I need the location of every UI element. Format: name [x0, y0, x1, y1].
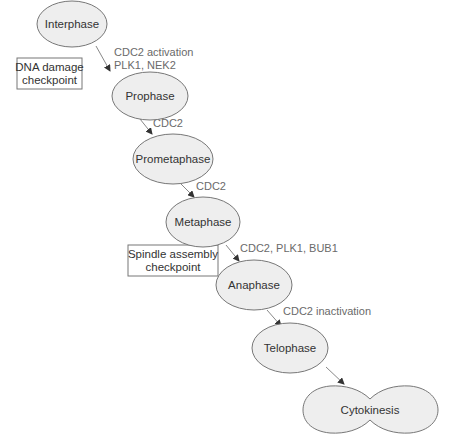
- edge-prophase-prometaphase: [140, 119, 152, 134]
- node-prophase: Prophase: [112, 72, 188, 120]
- edge-metaphase-anaphase: [226, 245, 239, 261]
- node-metaphase: Metaphase: [166, 197, 240, 247]
- checkpoint-spindle-assembly: Spindle assembly checkpoint: [128, 245, 218, 276]
- node-anaphase-label: Anaphase: [228, 279, 280, 291]
- checkpoint-dna-damage-line2: checkpoint: [22, 74, 78, 86]
- node-metaphase-label: Metaphase: [175, 216, 232, 228]
- edge-label-plk1-nek2: PLK1, NEK2: [114, 59, 176, 71]
- node-prophase-label: Prophase: [125, 90, 174, 102]
- node-telophase-label: Telophase: [264, 342, 316, 354]
- checkpoint-spindle-assembly-line1: Spindle assembly: [128, 248, 218, 260]
- checkpoint-dna-damage-line1: DNA damage: [15, 61, 83, 73]
- edge-prometaphase-metaphase: [180, 183, 194, 197]
- node-interphase: Interphase: [37, 1, 107, 47]
- edge-label-cdc2-plk1-bub1: CDC2, PLK1, BUB1: [240, 242, 338, 254]
- edge-telophase-cytokinesis: [326, 367, 344, 384]
- checkpoint-dna-damage: DNA damage checkpoint: [15, 58, 83, 89]
- node-telophase: Telophase: [252, 323, 328, 373]
- node-interphase-label: Interphase: [45, 18, 99, 30]
- edge-label-cdc2-inactivation: CDC2 inactivation: [283, 305, 371, 317]
- edge-interphase-prophase: [96, 46, 110, 71]
- node-prometaphase: Prometaphase: [133, 134, 213, 184]
- edge-label-cdc2-2: CDC2: [196, 180, 226, 192]
- node-cytokinesis-label: Cytokinesis: [341, 404, 400, 416]
- node-cytokinesis: Cytokinesis: [303, 386, 438, 433]
- node-anaphase: Anaphase: [216, 260, 292, 310]
- edge-label-cdc2-activation: CDC2 activation: [114, 46, 193, 58]
- checkpoint-spindle-assembly-line2: checkpoint: [146, 261, 202, 273]
- cell-cycle-diagram: CDC2 activation PLK1, NEK2 CDC2 CDC2 CDC…: [0, 0, 455, 448]
- node-prometaphase-label: Prometaphase: [136, 153, 211, 165]
